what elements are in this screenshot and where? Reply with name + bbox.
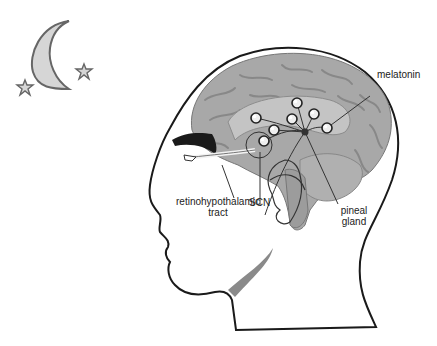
label-pineal-gland: pineal gland [334, 205, 374, 227]
crescent-moon-icon [32, 21, 69, 89]
neuron-highlight [311, 111, 315, 115]
neuron-highlight [289, 116, 293, 120]
star-icon [76, 64, 92, 79]
label-rht-line2: tract [158, 207, 278, 218]
neuron-icon [287, 114, 297, 124]
neuron-icon [259, 136, 269, 146]
neuron-icon [251, 113, 261, 123]
neuron-icon [269, 125, 279, 135]
neuron-icon [322, 123, 332, 133]
neuron-highlight [271, 127, 275, 131]
star-icon [17, 80, 33, 95]
label-pineal-line1: pineal [334, 205, 374, 216]
neuron-highlight [253, 115, 257, 119]
label-pineal-line2: gland [334, 216, 374, 227]
pineal-gland-dot [302, 129, 309, 136]
diagram-canvas [0, 0, 437, 346]
neuron-highlight [261, 138, 265, 142]
neuron-highlight [294, 100, 298, 104]
neuron-icon [309, 109, 319, 119]
label-melatonin: melatonin [377, 69, 420, 80]
label-scn: SCN [249, 197, 270, 208]
neuron-icon [292, 98, 302, 108]
neuron-highlight [324, 125, 328, 129]
